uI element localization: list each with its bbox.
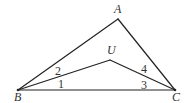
segment-ab bbox=[18, 19, 118, 90]
vertex-label-u: U bbox=[107, 43, 117, 57]
vertex-label-a: A bbox=[113, 2, 122, 16]
angle-label-2: 2 bbox=[55, 64, 61, 78]
angle-label-1: 1 bbox=[58, 77, 64, 91]
vertex-label-c: C bbox=[172, 90, 181, 103]
angle-label-3: 3 bbox=[141, 78, 147, 92]
vertex-label-b: B bbox=[14, 90, 22, 103]
segment-bu bbox=[18, 60, 110, 90]
angle-label-4: 4 bbox=[141, 62, 147, 76]
triangle-diagram: A B C U 1 2 3 4 bbox=[0, 0, 188, 103]
